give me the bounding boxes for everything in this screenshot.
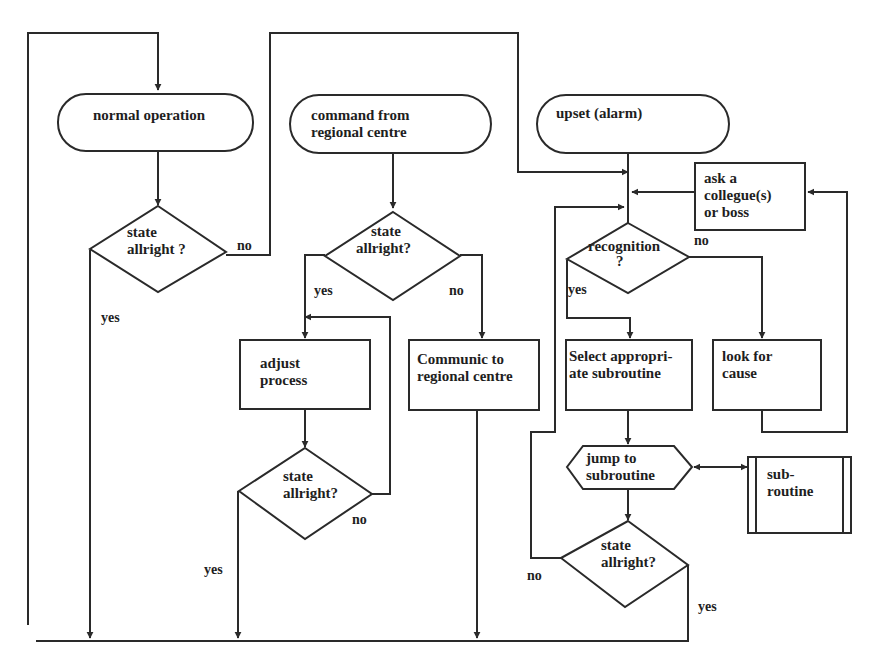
label-check1-yes: yes [101,310,120,325]
node-state-check-1-line1: state [127,224,157,240]
node-command-line1: command from [311,107,410,123]
node-state-check-4: state allright? [561,521,688,607]
node-select-subroutine: Select appropri- ate subroutine [566,340,692,410]
node-ask-colleague: ask a collegue(s) or boss [695,163,805,230]
node-subroutine: sub- routine [748,457,851,533]
node-adjust-line2: process [260,372,307,388]
node-normal-operation: normal operation [58,94,253,151]
node-recognition-line2: ? [616,253,624,269]
node-state-check-4-line1: state [601,537,631,553]
node-communic-line2: regional centre [417,368,513,384]
node-command-from-regional-centre: command from regional centre [290,95,491,153]
node-adjust-process: adjust process [240,340,370,409]
label-check3-yes: yes [204,562,223,577]
node-ask-line3: or boss [704,204,749,220]
node-state-check-2-line1: state [371,223,401,239]
node-jump-line1: jump to [585,450,636,466]
node-upset-text: upset (alarm) [556,105,642,122]
label-check2-no: no [449,283,464,298]
node-state-check-2-line2: allright? [356,240,411,256]
node-ask-line2: collegue(s) [704,187,771,204]
node-state-check-4-line2: allright? [601,554,656,570]
node-jump-to-subroutine: jump to subroutine [567,446,692,489]
node-communic-to-regional-centre: Communic to regional centre [409,340,539,410]
node-adjust-line1: adjust [260,355,300,371]
node-look-line2: cause [722,365,757,381]
node-state-check-1-line2: allright ? [127,241,186,257]
label-check3-no: no [352,512,367,527]
label-check1-no: no [237,238,252,253]
node-state-check-3-line1: state [283,468,313,484]
node-communic-line1: Communic to [417,351,504,367]
node-state-check-3-line2: allright? [283,485,338,501]
edge-recognition-no [689,257,762,338]
flowchart: normal operation state allright ? comman… [0,0,877,661]
node-subroutine-line2: routine [767,483,814,499]
node-jump-line2: subroutine [586,467,655,483]
node-look-for-cause: look for cause [713,340,821,410]
node-ask-line1: ask a [704,170,737,186]
label-check4-no: no [527,568,542,583]
label-check2-yes: yes [314,283,333,298]
label-recognition-no: no [694,233,709,248]
node-select-line2: ate subroutine [569,365,661,381]
node-subroutine-line1: sub- [767,466,795,482]
node-upset-alarm: upset (alarm) [537,95,729,153]
node-state-check-2: state allright? [325,212,460,300]
node-normal-operation-text: normal operation [93,107,206,123]
node-command-line2: regional centre [311,124,407,140]
label-recognition-yes: yes [568,282,587,297]
node-look-line1: look for [722,348,773,364]
node-recognition-line1: recognition [588,238,661,254]
node-state-check-1: state allright ? [90,206,226,292]
label-check4-yes: yes [698,599,717,614]
node-select-line1: Select appropri- [569,348,672,364]
